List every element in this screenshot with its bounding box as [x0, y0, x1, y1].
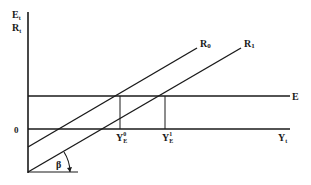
label-r0: R0	[200, 38, 211, 50]
line-r1	[28, 48, 241, 172]
y-axis-label-e: Et	[12, 9, 21, 21]
label-ye0: YE0	[116, 131, 127, 144]
origin-label: 0	[14, 125, 19, 135]
angle-label: β	[56, 159, 61, 170]
label-e: E	[292, 91, 299, 102]
y-axis-label-r: Rt	[12, 22, 21, 34]
label-ye1: YE1	[162, 131, 173, 144]
angle-arrowhead	[67, 167, 72, 172]
diagram-canvas: Et Rt 0 R0 R1 E YE0 YE1 Yt β	[0, 0, 311, 185]
x-axis-label: Yt	[278, 132, 287, 144]
label-r1: R1	[244, 38, 255, 50]
